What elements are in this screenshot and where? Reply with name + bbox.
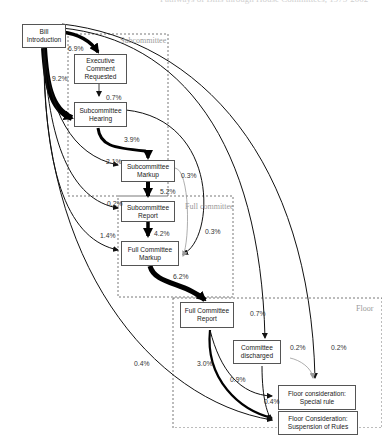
edge-label-hearing-to-fcmarkup: 0.3% (205, 228, 221, 235)
edge-intro-to-hearing (44, 48, 72, 118)
full-committee-region-label: Full committee (185, 202, 234, 211)
edge-discharged-to-special (290, 358, 313, 378)
edge-label-markup-to-report: 5.2% (160, 188, 176, 195)
node-committee-discharged[interactable]: Committeedischarged (233, 340, 281, 364)
edge-label-intro-to-discharged: 0.7% (250, 310, 266, 317)
edge-label-markup-to-fcmarkup-gray: 0.3% (181, 172, 197, 179)
edge-fcmarkup-to-fcreport (150, 266, 205, 300)
edge-label-fcreport-to-suspension: 3.0% (197, 360, 213, 367)
edge-label-discharged-to-suspension: 0.4% (264, 398, 280, 405)
edge-label-intro-to-suspension: 0.4% (134, 360, 150, 367)
edge-label-intro-to-report: 0.2% (107, 200, 123, 207)
edge-label-fcmarkup-to-fcreport: 6.2% (173, 273, 189, 280)
node-subcommittee-markup[interactable]: SubcommitteeMarkup (121, 160, 175, 182)
edge-label-hearing-to-markup: 3.9% (124, 136, 140, 143)
edge-hearing-to-markup (98, 128, 148, 158)
edge-label-intro-to-hearing: 9.2% (52, 75, 68, 82)
edge-label-intro-to-special: 0.2% (331, 344, 347, 351)
edge-label-discharged-to-special: 0.2% (290, 344, 306, 351)
edge-label-fcreport-to-special: 0.9% (230, 376, 246, 383)
edge-label-intro-to-exec: 6.9% (68, 45, 84, 52)
edge-label-intro-to-fcmarkup: 1.4% (100, 232, 116, 239)
node-full-committee-markup[interactable]: Full CommitteeMarkup (121, 241, 179, 266)
node-full-committee-report[interactable]: Full CommitteeReport (180, 302, 234, 328)
subcommittee-region-label: Subcommittee (120, 36, 166, 45)
node-subcommittee-hearing[interactable]: SubcommitteeHearing (74, 102, 127, 127)
edge-label-report-to-fcmarkup: 4.2% (154, 230, 170, 237)
edge-label-intro-to-markup: 2.1% (106, 158, 122, 165)
floor-region-label: Floor (356, 304, 373, 313)
node-executive-comment-requested[interactable]: ExecutiveCommentRequested (74, 54, 127, 84)
node-bill-introduction[interactable]: BillIntroduction (22, 24, 66, 48)
node-subcommittee-report[interactable]: SubcommitteeReport (121, 201, 175, 222)
edge-label-exec-to-hearing: 0.7% (106, 94, 122, 101)
edge-discharged-to-suspension (262, 366, 272, 420)
node-floor-suspension-of-rules[interactable]: Floor Consideration:Suspension of Rules (278, 411, 358, 435)
node-floor-special-rule[interactable]: Floor consideration:Special rule (278, 385, 356, 410)
